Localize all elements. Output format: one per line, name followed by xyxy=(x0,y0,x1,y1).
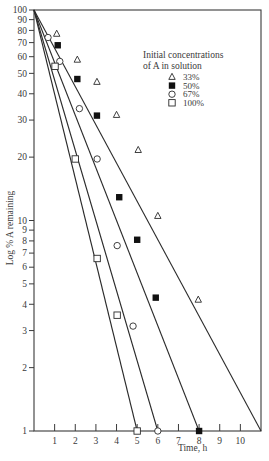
x-tick-label: 9 xyxy=(217,436,222,446)
y-tick-label: 4 xyxy=(22,300,27,310)
y-tick-label: 3 xyxy=(22,326,27,336)
marker-open-circle xyxy=(45,34,51,40)
x-tick-label: 2 xyxy=(73,436,78,446)
y-tick-label: 9 xyxy=(22,225,27,235)
legend-title-line1: Initial concentrations xyxy=(143,50,224,60)
marker-open-triangle xyxy=(94,78,100,84)
y-tick-label: 20 xyxy=(18,152,28,162)
x-tick-label: 3 xyxy=(94,436,99,446)
y-tick-label: 70 xyxy=(18,38,28,48)
fit-lines xyxy=(34,10,261,431)
legend-marker-filled-square xyxy=(169,82,175,88)
x-tick-label: 4 xyxy=(114,436,119,446)
marker-open-square xyxy=(72,156,78,162)
legend-label: 100% xyxy=(183,98,205,108)
y-tick-label: 1 xyxy=(22,426,27,436)
y-tick-label: 10 xyxy=(18,216,28,226)
fit-line-33pct xyxy=(34,10,261,431)
legend-items: 33%50%67%100% xyxy=(169,72,205,108)
marker-filled-square xyxy=(153,294,159,300)
marker-open-square xyxy=(134,428,140,434)
fit-line-100pct xyxy=(34,10,137,431)
fit-line-67pct xyxy=(34,10,158,431)
axes: 1234567891020304050607080901001234567891… xyxy=(13,5,261,446)
y-tick-label: 100 xyxy=(13,5,28,15)
semi-log-chart: 1234567891020304050607080901001234567891… xyxy=(0,0,269,461)
x-tick-label: 10 xyxy=(236,436,246,446)
marker-filled-square xyxy=(74,76,80,82)
y-tick-label: 8 xyxy=(22,236,27,246)
y-tick-label: 50 xyxy=(18,69,28,79)
y-tick-label: 80 xyxy=(18,26,28,36)
marker-open-circle xyxy=(94,156,100,162)
x-tick-label: 6 xyxy=(155,436,160,446)
legend-title-line2: of A in solution xyxy=(143,61,202,71)
marker-filled-square xyxy=(55,42,61,48)
y-tick-label: 5 xyxy=(22,279,27,289)
legend-marker-open-triangle xyxy=(169,73,175,79)
y-tick-label: 60 xyxy=(18,52,28,62)
y-axis-label: Log % A remaining xyxy=(5,190,15,265)
marker-filled-square xyxy=(116,194,122,200)
marker-open-triangle xyxy=(195,296,201,302)
marker-open-triangle xyxy=(155,212,161,218)
x-axis-label: Time, h xyxy=(178,443,207,453)
x-tick-label: 1 xyxy=(52,436,57,446)
y-tick-label: 90 xyxy=(18,15,28,25)
marker-open-square xyxy=(114,312,120,318)
marker-open-triangle xyxy=(54,30,60,36)
marker-open-circle xyxy=(76,105,82,111)
marker-open-triangle xyxy=(74,56,80,62)
marker-open-triangle xyxy=(135,146,141,152)
legend-marker-open-square xyxy=(169,100,175,106)
y-tick-label: 2 xyxy=(22,363,27,373)
marker-filled-square xyxy=(196,428,202,434)
marker-open-circle xyxy=(155,428,161,434)
y-tick-label: 40 xyxy=(18,89,28,99)
marker-open-square xyxy=(52,63,58,69)
fit-line-50pct xyxy=(34,10,199,431)
marker-open-triangle xyxy=(113,111,119,117)
x-tick-label: 5 xyxy=(135,436,140,446)
chart-canvas: 1234567891020304050607080901001234567891… xyxy=(0,0,269,461)
marker-open-circle xyxy=(130,323,136,329)
y-tick-label: 30 xyxy=(18,115,28,125)
legend: Initial concentrations of A in solution … xyxy=(143,50,224,108)
y-tick-label: 6 xyxy=(22,262,27,272)
marker-filled-square xyxy=(134,237,140,243)
marker-open-circle xyxy=(114,242,120,248)
y-tick-label: 7 xyxy=(22,248,27,258)
marker-filled-square xyxy=(94,112,100,118)
marker-open-square xyxy=(94,255,100,261)
legend-marker-open-circle xyxy=(169,91,175,97)
